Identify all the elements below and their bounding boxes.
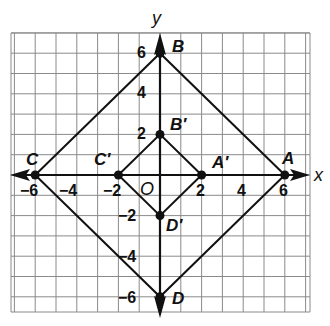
vertex-point	[156, 211, 165, 220]
coordinate-plane: ABCDA′B′C′D′−6−4−2246642−2−4−6 x y O	[0, 0, 330, 326]
origin-label: O	[140, 179, 154, 199]
x-tick-label: 6	[279, 182, 288, 199]
vertex-label: D′	[166, 216, 183, 235]
x-tick-label: 2	[196, 182, 205, 199]
y-tick-label: 2	[137, 125, 146, 142]
y-tick-label: −4	[118, 248, 136, 265]
y-tick-label: 6	[137, 44, 146, 61]
vertex-point	[31, 171, 40, 180]
y-axis-label: y	[150, 8, 162, 28]
vertex-label: C	[26, 150, 39, 169]
y-tick-label: 4	[137, 84, 146, 101]
vertex-label: D	[172, 289, 184, 308]
y-tick-label: −2	[118, 207, 136, 224]
vertex-point	[280, 171, 289, 180]
x-tick-label: 4	[237, 182, 246, 199]
x-tick-label: −6	[20, 182, 38, 199]
vertex-point	[114, 171, 123, 180]
x-tick-label: −2	[103, 182, 121, 199]
vertex-point	[197, 171, 206, 180]
labels: ABCDA′B′C′D′−6−4−2246642−2−4−6	[20, 37, 294, 308]
vertex-point	[156, 130, 165, 139]
vertex-label: B	[172, 37, 184, 56]
x-tick-label: −4	[59, 182, 77, 199]
vertex-label: C′	[94, 150, 111, 169]
x-axis-label: x	[313, 165, 324, 185]
vertex-point	[156, 49, 165, 58]
vertex-label: A	[281, 149, 294, 168]
vertex-label: B′	[170, 115, 187, 134]
vertex-point	[156, 292, 165, 301]
y-tick-label: −6	[118, 289, 136, 306]
vertex-label: A′	[211, 153, 229, 172]
